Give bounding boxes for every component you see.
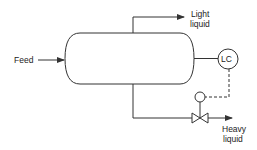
separator-vessel bbox=[65, 33, 194, 84]
control-signal-line bbox=[205, 69, 229, 97]
heavy-liquid-line bbox=[133, 84, 192, 118]
process-diagram bbox=[0, 0, 257, 150]
feed-label: Feed bbox=[14, 55, 33, 65]
light-liquid-label-line1: Light bbox=[191, 9, 209, 19]
heavy-liquid-label-line2: liquid bbox=[223, 134, 243, 144]
light-liquid-line bbox=[133, 17, 184, 33]
heavy-liquid-label-line1: Heavy bbox=[222, 124, 246, 134]
level-controller-tag: LC bbox=[221, 54, 232, 64]
valve-actuator-icon bbox=[195, 92, 205, 102]
light-liquid-label-line2: liquid bbox=[190, 19, 210, 29]
